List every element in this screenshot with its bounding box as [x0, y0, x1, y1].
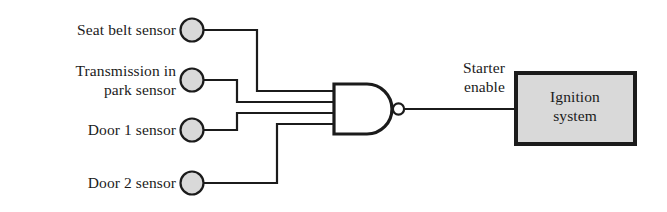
sensor-label-door-2: Door 2 sensor — [0, 173, 176, 192]
wire-door-2 — [204, 124, 334, 183]
sensor-node-seat-belt[interactable] — [181, 19, 204, 42]
ignition-system-label-line-1: Ignition — [550, 88, 600, 105]
inversion-bubble-icon — [393, 103, 404, 114]
sensor-node-door-2[interactable] — [181, 172, 204, 195]
output-label-starter-enable: Starterenable — [411, 58, 505, 96]
output-label-line-2: enable — [464, 78, 505, 95]
sensor-label-transmission-line-2: park sensor — [104, 81, 176, 98]
wire-seat-belt — [204, 30, 334, 91]
diagram-canvas: Seat belt sensor Transmission inpark sen… — [0, 0, 667, 212]
nand-gate-body — [334, 84, 392, 134]
wire-door-1 — [204, 113, 334, 130]
sensor-label-transmission: Transmission inpark sensor — [0, 61, 176, 99]
ignition-system-label: Ignitionsystem — [516, 87, 634, 125]
sensor-label-seat-belt: Seat belt sensor — [0, 20, 176, 39]
output-label-line-1: Starter — [463, 59, 505, 76]
sensor-node-transmission[interactable] — [181, 69, 204, 92]
sensor-node-group — [181, 19, 204, 195]
sensor-label-transmission-line-1: Transmission in — [76, 62, 176, 79]
sensor-node-door-1[interactable] — [181, 119, 204, 142]
sensor-label-door-1: Door 1 sensor — [0, 120, 176, 139]
nand-gate[interactable] — [334, 84, 404, 134]
ignition-system-label-line-2: system — [553, 107, 597, 124]
